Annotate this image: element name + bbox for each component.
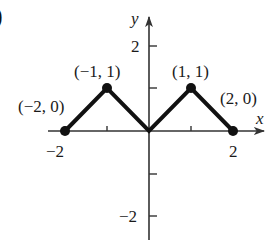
graph-figure: ) y x 2 −2 −2 2 (−2, 0) (−1, 1) (1, 1) (… [0, 0, 275, 249]
annotation-neg2-0: (−2, 0) [18, 97, 64, 116]
point-neg1-1 [102, 83, 112, 93]
y-tick-label-2: 2 [131, 37, 140, 56]
x-tick-label-neg2: −2 [46, 142, 64, 161]
point-2-0 [228, 126, 238, 136]
annotation-neg1-1: (−1, 1) [74, 62, 120, 81]
x-axis-label: x [255, 109, 264, 128]
chart-canvas: ) y x 2 −2 −2 2 (−2, 0) (−1, 1) (1, 1) (… [0, 0, 275, 249]
annotation-1-1: (1, 1) [172, 62, 209, 81]
point-1-1 [186, 83, 196, 93]
y-tick-label-neg2: −2 [119, 207, 137, 226]
y-axis-label: y [129, 9, 139, 28]
annotation-2-0: (2, 0) [220, 89, 257, 108]
x-tick-label-2: 2 [229, 142, 238, 161]
panel-label-fragment: ) [0, 1, 3, 30]
point-neg2-0 [60, 126, 70, 136]
